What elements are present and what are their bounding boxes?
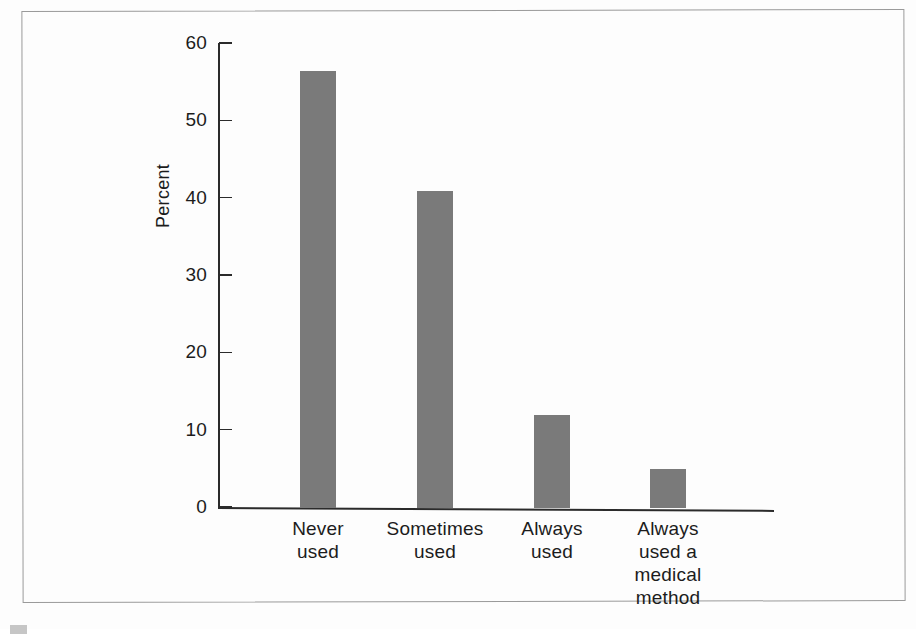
y-tick-label: 30 [185, 264, 207, 286]
y-tick-label: 60 [185, 32, 207, 54]
caption-marker-icon [10, 625, 27, 634]
y-tick-mark [219, 352, 232, 354]
y-tick-mark [219, 120, 232, 122]
category-label-line: medical [593, 563, 743, 586]
y-tick-mark [219, 42, 232, 44]
category-label-line: used a [593, 540, 743, 563]
bar [650, 469, 686, 508]
y-tick-label: 0 [196, 496, 207, 518]
bottom-caption [10, 619, 34, 635]
bar [417, 191, 453, 508]
y-tick-label: 10 [185, 419, 207, 441]
bar-column [650, 38, 686, 508]
y-tick-label: 20 [185, 341, 207, 363]
y-tick-label: 50 [185, 109, 207, 131]
category-label-line: Always [593, 517, 743, 540]
y-tick-mark [219, 429, 232, 431]
y-tick-label: 40 [185, 187, 207, 209]
bar-column [534, 38, 570, 508]
y-tick-mark [219, 274, 232, 276]
y-tick-mark [219, 197, 232, 199]
y-axis-title: Percent [153, 164, 174, 228]
x-axis-category-label: Alwaysused amedicalmethod [593, 517, 743, 609]
bar [300, 71, 336, 508]
y-tick-mark [219, 506, 232, 508]
category-label-line: method [593, 586, 743, 609]
bar-column [417, 38, 453, 508]
bar-column [300, 38, 336, 508]
bar [534, 415, 570, 508]
